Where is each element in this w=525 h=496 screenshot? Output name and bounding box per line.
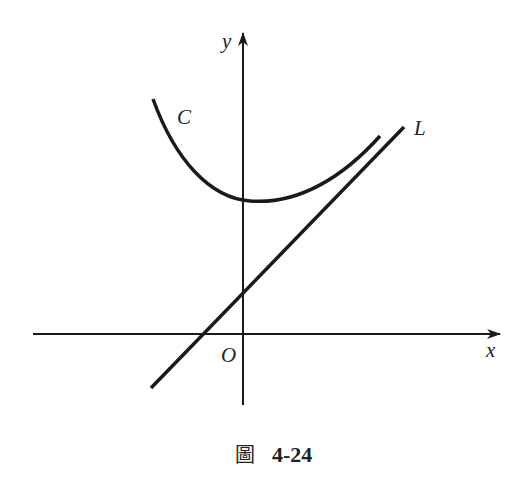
y-axis-label: y [220,29,232,53]
caption-char: 圖 [235,443,255,467]
origin-label: O [221,343,236,367]
caption-number: 4-24 [272,442,312,467]
curve-c-label: C [177,105,192,129]
figure-4-24: y x O C L 圖 4-24 [0,0,525,496]
x-axis-label: x [485,338,496,362]
line-l-label: L [413,116,426,140]
diagram-canvas: y x O C L 圖 4-24 [0,0,525,496]
